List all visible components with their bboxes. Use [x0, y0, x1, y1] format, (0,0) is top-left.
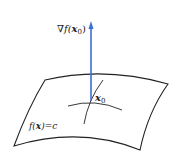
gradient-label: ∇f(x0)	[57, 23, 86, 36]
gradient-arrowhead	[89, 21, 94, 29]
surface-label: f(x)=c	[28, 121, 57, 131]
gradient-diagram: ∇f(x0) x0 f(x)=c	[0, 0, 180, 164]
surface-curve-2	[68, 103, 122, 110]
